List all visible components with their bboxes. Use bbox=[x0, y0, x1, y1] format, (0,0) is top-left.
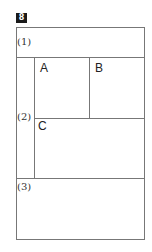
cell-a-label: A bbox=[40, 61, 48, 75]
question-number-badge: 8 bbox=[16, 13, 27, 23]
section-3-label: (3) bbox=[17, 181, 31, 192]
section-1-label: (1) bbox=[17, 36, 31, 47]
cell-b-label: B bbox=[95, 61, 103, 75]
answer-field-2c[interactable] bbox=[35, 119, 144, 178]
answer-field-3[interactable] bbox=[17, 179, 144, 239]
section-2-label: (2) bbox=[17, 111, 31, 122]
cell-c-label: C bbox=[38, 119, 47, 133]
answer-field-1[interactable] bbox=[17, 28, 144, 57]
